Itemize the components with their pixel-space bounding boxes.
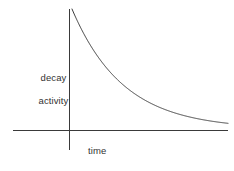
x-axis-label: time [88,145,106,157]
decay-curve [72,9,228,123]
decay-activity-figure: decay activity time [0,0,234,171]
y-axis-label: decay activity [26,60,70,118]
y-axis-label-line-2: activity [39,95,69,106]
y-axis-label-line-1: decay [41,72,67,83]
